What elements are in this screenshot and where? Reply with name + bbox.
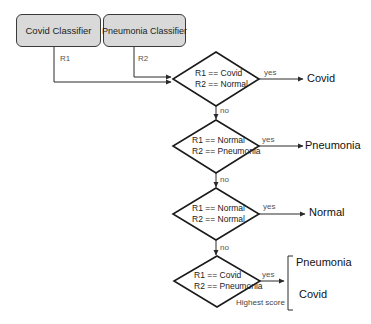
decision-1-yes-label: yes [264,68,276,77]
decision-2-line2: R2 == Pneumonia [192,146,261,157]
output-pneumonia: Pneumonia [305,139,361,151]
decision-1-condition: R1 == Covid R2 == Normal [195,68,248,90]
edge-label-r2: R2 [138,54,148,63]
decision-1-line2: R2 == Normal [195,79,248,90]
output-bracket-pneumonia: Pneumonia [296,256,352,268]
covid-classifier-box: Covid Classifier [16,14,101,47]
highest-score-note: Highest score [236,298,285,307]
decision-4-condition: R1 == Covid R2 == Pneumonia [194,270,263,292]
output-covid: Covid [307,72,335,84]
decision-2-no-label: no [220,175,229,184]
flowchart-lines [0,0,371,324]
decision-4-line2: R2 == Pneumonia [194,281,263,292]
decision-4-line1: R1 == Covid [194,270,263,281]
decision-3-line1: R1 == Normal [192,203,245,214]
decision-2-condition: R1 == Normal R2 == Pneumonia [192,135,261,157]
decision-3-no-label: no [220,243,229,252]
decision-2-line1: R1 == Normal [192,135,261,146]
output-bracket-covid: Covid [299,288,327,300]
decision-1-line1: R1 == Covid [195,68,248,79]
decision-4-yes-label: yes [262,270,274,279]
covid-classifier-label: Covid Classifier [26,25,92,36]
result-bracket [288,256,293,310]
decision-3-line2: R2 == Normal [192,214,245,225]
pneumonia-classifier-label: Pneumonia Classifier [102,26,187,36]
flowchart-canvas: Covid Classifier Pneumonia Classifier R1… [0,0,371,324]
pneumonia-classifier-box: Pneumonia Classifier [103,14,186,47]
edge-label-r1: R1 [60,54,70,63]
decision-1-no-label: no [220,106,229,115]
decision-2-yes-label: yes [262,135,274,144]
decision-3-condition: R1 == Normal R2 == Normal [192,203,245,225]
decision-3-yes-label: yes [263,202,275,211]
output-normal: Normal [309,206,344,218]
